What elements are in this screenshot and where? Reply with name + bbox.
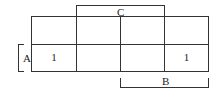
grid-left-border xyxy=(31,16,32,72)
cell-r1-c3: 1 xyxy=(165,52,208,63)
label-c: C xyxy=(117,7,124,18)
a-bracket-bottom xyxy=(18,71,24,72)
grid-col-line-2 xyxy=(120,16,121,72)
grid-right-border xyxy=(208,16,209,72)
c-bracket-right xyxy=(164,5,165,16)
b-bracket-right xyxy=(208,78,209,88)
grid-col-line-1 xyxy=(76,16,77,72)
a-bracket-left xyxy=(18,44,19,72)
label-b: B xyxy=(162,76,169,87)
c-bracket-left xyxy=(76,5,77,16)
label-a: A xyxy=(23,53,31,64)
b-bracket-left xyxy=(120,78,121,88)
a-bracket-top xyxy=(18,44,24,45)
b-bracket-bottom xyxy=(120,87,209,88)
grid-col-line-3 xyxy=(164,16,165,72)
cell-r1-c0: 1 xyxy=(32,52,76,63)
